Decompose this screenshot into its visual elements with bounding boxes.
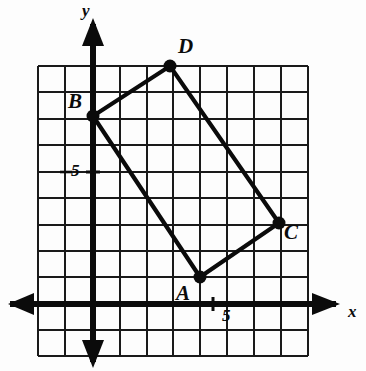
vertex-label-d: D — [178, 36, 193, 57]
axis-x-arrow-left — [8, 293, 34, 315]
axis-y-tick-label-5: 5 — [71, 162, 80, 179]
vertex-label-c: C — [284, 222, 298, 243]
axis-label-x: x — [348, 303, 357, 320]
vertex-label-a: A — [176, 283, 190, 304]
vertex-label-b: B — [68, 91, 82, 112]
vertex-point-d — [164, 60, 177, 73]
axis-x-arrow-right — [312, 293, 340, 315]
axis-y-arrow-up — [82, 18, 104, 46]
axis-y — [60, 18, 104, 368]
coordinate-plane-figure: D B C A y x 5 5 — [0, 0, 366, 371]
axis-y-arrow-down — [82, 340, 104, 368]
vertex-point-a — [194, 271, 207, 284]
axis-label-y: y — [82, 2, 90, 19]
axis-x-tick-label-5: 5 — [222, 307, 231, 324]
vertex-point-b — [87, 110, 100, 123]
